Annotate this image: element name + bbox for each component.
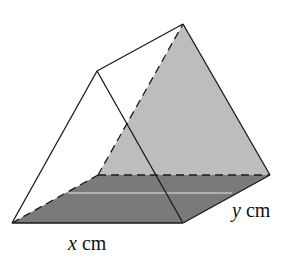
y-dimension-label: y cm	[230, 199, 271, 222]
x-dimension-label: x cm	[67, 232, 107, 254]
triangular-prism-diagram: x cm y cm	[0, 0, 300, 265]
prism-sloped-face	[98, 24, 270, 175]
